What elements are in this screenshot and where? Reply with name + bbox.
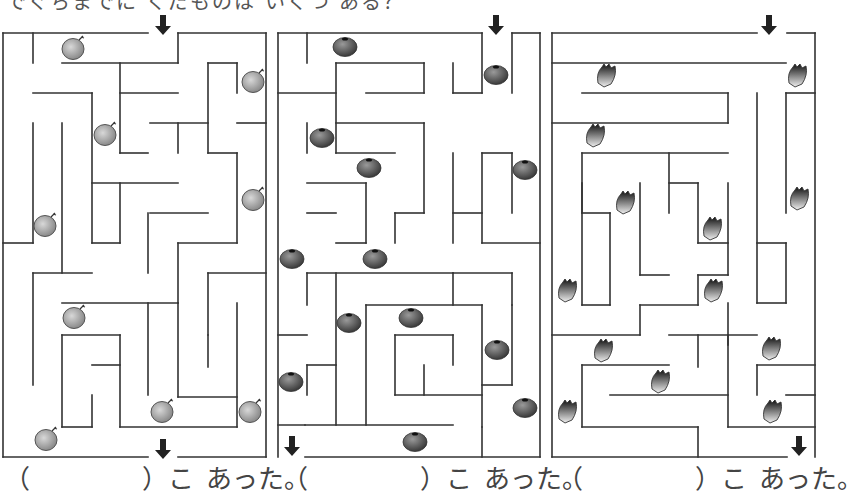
answer-blank-1[interactable]: （）こあった。 xyxy=(4,458,310,495)
close-paren-ko: ）こ xyxy=(695,464,747,494)
entrance-arrow-icon xyxy=(155,15,171,35)
blueberry-icon xyxy=(310,129,334,148)
melon-icon xyxy=(34,213,56,237)
melon-icon xyxy=(94,122,116,146)
blueberry-icon xyxy=(279,373,303,392)
blueberry-icon xyxy=(280,250,304,269)
pineapple-icon xyxy=(559,279,577,302)
blueberry-icon xyxy=(333,38,357,57)
blueberry-icon xyxy=(485,341,509,360)
blueberry-maze xyxy=(278,15,540,457)
melon-icon xyxy=(242,69,264,93)
melon-maze xyxy=(3,15,266,459)
open-paren: （ xyxy=(282,458,308,495)
melon-icon xyxy=(63,305,85,329)
pineapple-icon xyxy=(791,187,809,210)
open-paren: （ xyxy=(557,458,583,495)
blueberry-icon xyxy=(403,433,427,452)
close-paren-ko: ）こ xyxy=(420,464,472,494)
pineapple-icon xyxy=(763,337,781,360)
blueberry-icon xyxy=(337,314,361,333)
pineapple-icon xyxy=(617,191,635,214)
pineapple-icon xyxy=(764,400,782,423)
pineapple-icon xyxy=(587,124,605,147)
melon-icon xyxy=(239,399,261,423)
melon-icon xyxy=(151,399,173,423)
answer-blank-2[interactable]: （）こあった。 xyxy=(282,458,588,495)
melon-icon xyxy=(62,36,84,60)
pineapple-icon xyxy=(595,339,613,362)
blueberry-icon xyxy=(363,250,387,269)
entrance-arrow-icon xyxy=(488,15,504,35)
pineapple-icon xyxy=(789,64,807,87)
melon-icon xyxy=(242,187,264,211)
pineapple-icon xyxy=(704,217,722,240)
blueberry-icon xyxy=(513,399,537,418)
pineapple-icon xyxy=(705,279,723,302)
atta-label: あった。 xyxy=(759,464,851,494)
open-paren: （ xyxy=(4,458,30,495)
blueberry-icon xyxy=(484,66,508,85)
exit-arrow-icon xyxy=(155,439,171,459)
exit-arrow-icon xyxy=(284,436,300,456)
entrance-arrow-icon xyxy=(761,15,777,35)
blueberry-icon xyxy=(357,159,381,178)
exit-arrow-icon xyxy=(791,436,807,456)
answer-blank-3[interactable]: （）こあった。 xyxy=(557,458,851,495)
melon-icon xyxy=(35,427,57,451)
pineapple-icon xyxy=(598,64,616,87)
blueberry-icon xyxy=(399,309,423,328)
pineapple-icon xyxy=(559,400,577,423)
pineapple-maze xyxy=(552,15,815,457)
blueberry-icon xyxy=(513,161,537,180)
pineapple-icon xyxy=(652,370,670,393)
close-paren-ko: ）こ xyxy=(142,464,194,494)
